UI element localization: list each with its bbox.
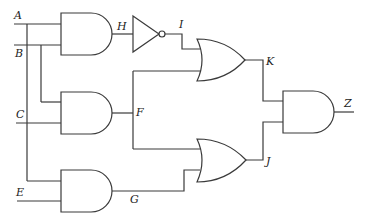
and-gate-Z xyxy=(283,91,334,133)
or-gate-J xyxy=(197,139,246,182)
label-E: E xyxy=(16,187,24,198)
wire-J xyxy=(246,122,283,160)
and-gate-F xyxy=(61,92,112,134)
inverter-bubble xyxy=(159,31,165,37)
label-A: A xyxy=(14,10,22,21)
label-B: B xyxy=(15,48,23,59)
wire-G xyxy=(112,170,200,191)
label-G: G xyxy=(130,194,139,205)
label-Z: Z xyxy=(344,98,352,109)
not-gate-I xyxy=(133,16,159,52)
circuit-canvas xyxy=(0,0,365,223)
label-C: C xyxy=(16,109,24,120)
or-gate-K xyxy=(197,39,245,81)
and-gate-H xyxy=(61,13,112,55)
wire-I xyxy=(165,34,200,49)
logic-circuit-diagram: A B C E H I F G K J Z xyxy=(0,0,365,223)
label-K: K xyxy=(266,56,274,67)
wire-K xyxy=(245,60,283,101)
label-F: F xyxy=(136,107,144,118)
label-J: J xyxy=(266,156,270,167)
label-I: I xyxy=(179,19,183,30)
label-H: H xyxy=(117,21,127,32)
and-gate-G xyxy=(61,170,112,212)
